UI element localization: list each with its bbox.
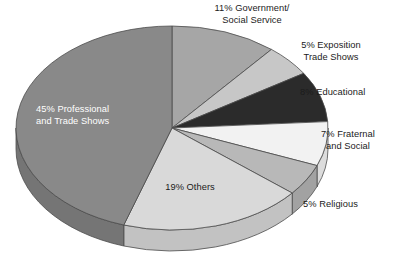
slice-label-religious: 5% Religious <box>303 199 401 211</box>
slice-label-exposition-trade-shows: 5% Exposition Trade Shows <box>262 40 400 63</box>
slice-label-professional-and-trade-shows: 45% Professional and Trade Shows <box>36 104 158 127</box>
slice-label-government-social-service: 11% Government/ Social Service <box>192 3 312 26</box>
pie-chart: 11% Government/ Social Service 5% Exposi… <box>0 0 403 259</box>
slice-label-educational: 8% Educational <box>300 87 400 99</box>
slice-label-others: 19% Others <box>140 182 240 194</box>
slice-label-fraternal-and-social: 7% Fraternal and Social <box>298 129 398 152</box>
